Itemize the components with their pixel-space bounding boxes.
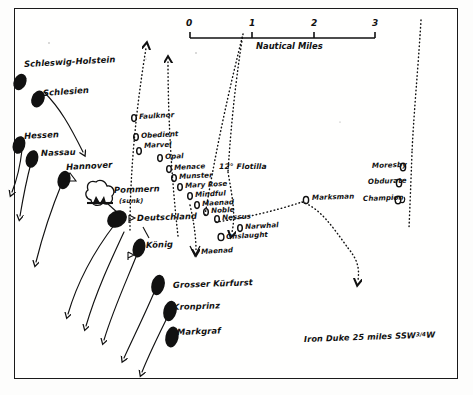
ship-label-maenad-second: Maenad	[201, 246, 234, 255]
ship-label-champion: Champion	[363, 194, 404, 203]
ship-label-moresby: Moresby	[372, 161, 407, 169]
ship-label-pommern: Pommern	[114, 184, 160, 194]
ship-label-opal: Opal	[165, 152, 184, 160]
scale-bar-caption: Nautical Miles	[256, 41, 323, 51]
ship-label-hannover: Hannover	[66, 161, 113, 172]
bearing-note-suffix: W	[426, 329, 435, 339]
ship-label-narwhal: Narwhal	[245, 221, 279, 230]
ship-label-obdurate: Obdurate	[368, 177, 407, 185]
ship-label-kronprinz: Kronprinz	[173, 301, 220, 311]
ship-label-menace: Menace	[174, 162, 206, 171]
scale-tick-2: 2	[311, 18, 317, 28]
maenad-arrow-mark	[190, 246, 200, 256]
scan-speckles	[48, 42, 340, 122]
ship-label-koenig: König	[146, 240, 173, 249]
ship-label-mindful: Mindful	[195, 189, 226, 198]
ship-label-nessus: Nessus	[222, 212, 251, 221]
ship-label-faulknor: Faulknor	[139, 111, 175, 120]
scale-bar-graphic	[190, 32, 375, 38]
bearing-note-fraction: 3/4	[416, 331, 426, 337]
ship-label-onslaught: Onslaught	[226, 231, 268, 240]
scale-tick-3: 3	[372, 18, 378, 28]
scale-tick-0: 0	[186, 18, 192, 28]
ship-label-obedient: Obedient	[141, 130, 179, 139]
british-track-lines	[130, 20, 421, 280]
ship-label-marksman: Marksman	[312, 193, 355, 202]
flotilla-label: 12° Flotilla	[219, 163, 267, 171]
jutland-track-chart: 0 1 2 3 Nautical Miles 12° Flotilla Schl…	[0, 0, 473, 395]
ship-label-deutschland: Deutschland	[137, 212, 197, 222]
scale-tick-1: 1	[249, 18, 255, 28]
ship-label-markgraf: Markgraf	[177, 326, 221, 336]
ship-label-pommern-sunk: (sunk)	[119, 198, 143, 205]
ship-label-hessen: Hessen	[24, 130, 59, 140]
ship-label-marvel: Marvel	[144, 141, 172, 150]
ship-label-nassau: Nassau	[41, 148, 76, 158]
